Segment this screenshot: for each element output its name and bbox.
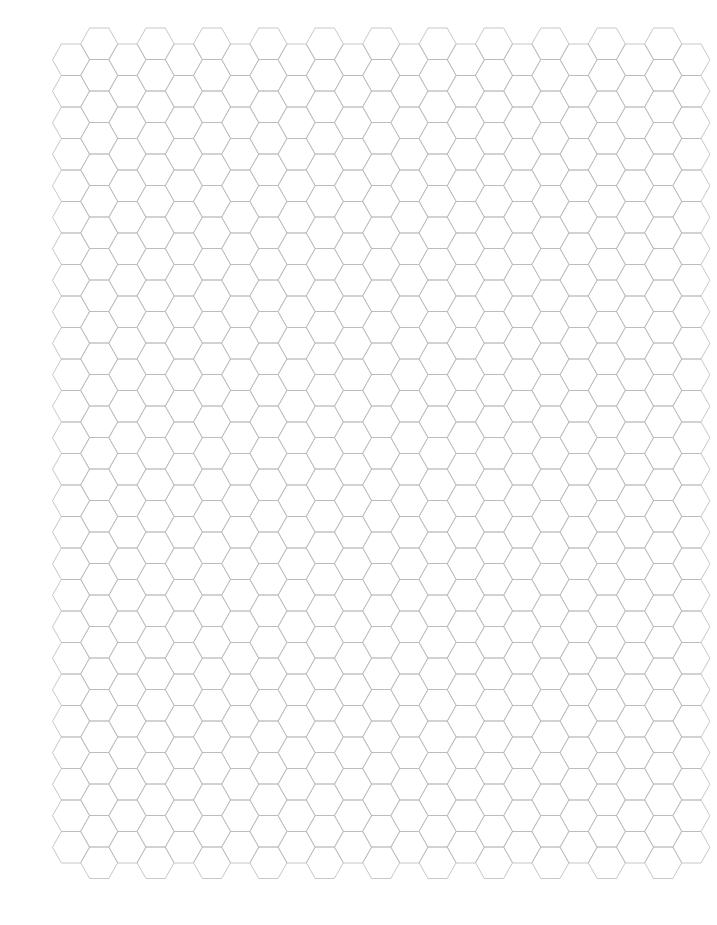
hexagon-grid — [0, 0, 717, 925]
hex-graph-paper-page: hexagonal graph paper — [0, 0, 717, 925]
hexagon-cells — [53, 28, 710, 879]
